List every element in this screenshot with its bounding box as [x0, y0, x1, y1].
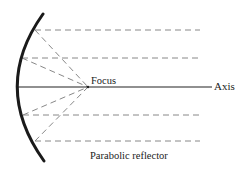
focus-point: [87, 86, 89, 88]
reflected-rays: [22, 30, 88, 141]
reflected-ray-2: [22, 58, 88, 87]
reflected-ray-3: [23, 87, 88, 115]
diagram-caption: Parabolic reflector: [90, 150, 168, 161]
parabolic-reflector-diagram: Focus Axis Parabolic reflector: [0, 0, 247, 182]
focus-label: Focus: [91, 75, 116, 86]
axis-label: Axis: [214, 80, 235, 92]
reflected-ray-4: [35, 87, 88, 141]
